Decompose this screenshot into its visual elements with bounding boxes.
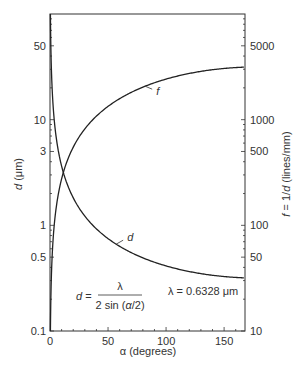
right-tick-label: 100: [250, 219, 268, 231]
svg-text:f = 1/d (lines/mm): f = 1/d (lines/mm): [280, 131, 292, 216]
left-axis-label-unit: (μm): [12, 158, 24, 184]
formula-denominator: 2 sin (α/2): [95, 299, 144, 311]
right-tick-label: 10: [250, 325, 262, 337]
grating-spacing-chart: 5010310.50.1 500010005001005010 05010015…: [0, 0, 306, 377]
curve-label-d: d: [127, 231, 134, 243]
curve-label-f: f: [156, 85, 160, 97]
x-axis-label: α (degrees): [120, 345, 177, 357]
svg-text:d (μm): d (μm): [12, 158, 24, 190]
wavelength-annotation: λ = 0.6328 μm: [168, 285, 238, 297]
plot-frame: [50, 14, 245, 331]
x-tick-label: 150: [215, 335, 233, 347]
formula-numerator: λ: [117, 280, 123, 292]
svg-text:d =: d =: [76, 290, 92, 302]
x-tick-label: 0: [47, 335, 53, 347]
left-tick-label: 50: [34, 40, 46, 52]
right-axis-label: f = 1/d (lines/mm): [280, 131, 292, 216]
d-curve: [50, 14, 243, 278]
formula-annotation: d = λ 2 sin (α/2): [76, 280, 145, 311]
left-tick-label: 10: [34, 114, 46, 126]
left-tick-label: 1: [40, 219, 46, 231]
right-tick-label: 50: [250, 251, 262, 263]
curve-labels: fd: [116, 85, 160, 244]
left-tick-label: 0.5: [31, 251, 46, 263]
leader-line: [145, 86, 152, 89]
left-axis-label: d (μm): [12, 158, 24, 190]
left-tick-label: 0.1: [31, 325, 46, 337]
right-tick-label: 5000: [250, 40, 274, 52]
right-tick-label: 500: [250, 145, 268, 157]
right-axis-tick-labels: 500010005001005010: [250, 40, 274, 337]
left-tick-label: 3: [40, 145, 46, 157]
x-tick-label: 50: [102, 335, 114, 347]
left-axis-tick-labels: 5010310.50.1: [31, 40, 46, 337]
right-tick-label: 1000: [250, 114, 274, 126]
leader-line: [116, 240, 123, 244]
